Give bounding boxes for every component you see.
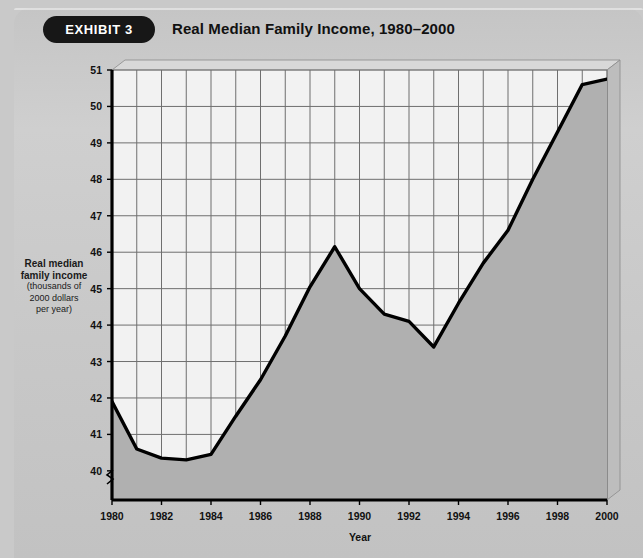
plot-top-bevel xyxy=(112,60,620,70)
plot-right-bevel xyxy=(607,60,620,500)
y-tick-label: 49 xyxy=(76,137,102,149)
y-tick-label: 50 xyxy=(76,100,102,112)
x-tick-label: 1996 xyxy=(488,510,528,522)
chart-container: Real median family income (thousands of … xyxy=(0,0,643,558)
x-tick-label: 1994 xyxy=(439,510,479,522)
x-tick-label: 1988 xyxy=(290,510,330,522)
y-tick-label: 48 xyxy=(76,173,102,185)
x-tick-label: 1980 xyxy=(92,510,132,522)
x-tick-label: 1990 xyxy=(340,510,380,522)
y-tick-label: 45 xyxy=(76,283,102,295)
x-tick-label: 1998 xyxy=(538,510,578,522)
exhibit-page: EXHIBIT 3 Real Median Family Income, 198… xyxy=(0,0,643,558)
x-tick-label: 1984 xyxy=(191,510,231,522)
y-tick-label: 44 xyxy=(76,319,102,331)
x-tick-label: 1992 xyxy=(389,510,429,522)
y-tick-label: 42 xyxy=(76,392,102,404)
y-tick-label: 43 xyxy=(76,356,102,368)
y-tick-label: 41 xyxy=(76,428,102,440)
y-tick-label: 47 xyxy=(76,210,102,222)
y-tick-label: 40 xyxy=(76,465,102,477)
y-tick-label: 51 xyxy=(76,64,102,76)
x-tick-label: 2000 xyxy=(587,510,627,522)
x-tick-label: 1982 xyxy=(142,510,182,522)
y-tick-label: 46 xyxy=(76,246,102,258)
x-axis-title: Year xyxy=(330,531,390,543)
x-tick-label: 1986 xyxy=(241,510,281,522)
